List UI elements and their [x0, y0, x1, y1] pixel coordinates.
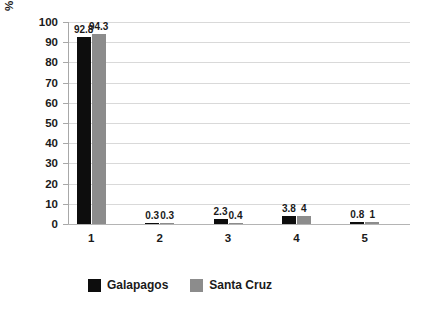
y-axis-tick-label: 50 [24, 116, 58, 130]
y-axis-tick-label: 30 [24, 156, 58, 170]
chart-legend: GalapagosSanta Cruz [88, 277, 272, 293]
legend-entry: Santa Cruz [190, 278, 272, 292]
x-axis-tick-label: 3 [208, 231, 248, 245]
gridline [68, 184, 410, 185]
y-axis-tick-label: 0 [24, 217, 58, 231]
y-axis-tick-label: 10 [24, 197, 58, 211]
bar-value-label: 94.3 [87, 21, 111, 33]
y-axis-tick-label: 60 [24, 96, 58, 110]
x-axis-tick-label: 1 [71, 231, 111, 245]
y-axis-line [68, 22, 69, 225]
bar-value-label: 1 [360, 209, 384, 221]
y-axis-tick-label: 70 [24, 76, 58, 90]
x-axis-tick-label: 5 [345, 231, 385, 245]
gridline [68, 42, 410, 43]
gridline [68, 62, 410, 63]
bar [297, 216, 311, 224]
x-axis-tick-label: 2 [140, 231, 180, 245]
bar [77, 37, 91, 224]
legend-entry: Galapagos [88, 278, 168, 292]
y-axis-tick-label: 100 [24, 15, 58, 29]
bar-value-label: 0.4 [224, 210, 248, 222]
bar-chart-figure: % waste disposal methods 010203040506070… [0, 0, 423, 309]
y-axis-tick-label: 80 [24, 55, 58, 69]
plot-area: 92.894.30.30.32.30.43.840.81 [68, 22, 410, 224]
bar-value-label: 0.3 [155, 210, 179, 222]
y-axis-tick-label: 20 [24, 177, 58, 191]
x-axis-baseline [68, 224, 410, 225]
legend-swatch [88, 279, 101, 292]
gridline [68, 123, 410, 124]
bar [282, 216, 296, 224]
bar [92, 34, 106, 224]
bar-value-label: 4 [292, 203, 316, 215]
gridline [68, 103, 410, 104]
x-axis-tick-label: 4 [276, 231, 316, 245]
y-axis-tick-label: 40 [24, 136, 58, 150]
legend-swatch [190, 279, 203, 292]
gridline [68, 163, 410, 164]
y-axis-title: % waste disposal methods [0, 0, 18, 40]
gridline [68, 83, 410, 84]
y-axis-tick-label: 90 [24, 35, 58, 49]
gridline [68, 143, 410, 144]
legend-label: Santa Cruz [209, 278, 272, 292]
gridline [68, 22, 410, 23]
gridline [68, 204, 410, 205]
legend-label: Galapagos [107, 278, 168, 292]
